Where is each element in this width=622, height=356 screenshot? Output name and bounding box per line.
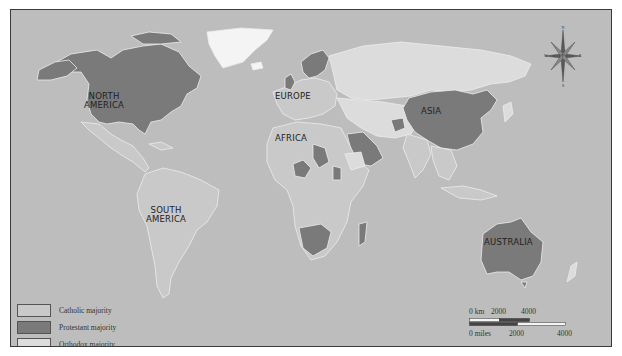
australia-protestant[interactable]	[481, 218, 543, 280]
legend-item-catholic: Catholic majority	[17, 302, 116, 319]
russia-orthodox[interactable]	[329, 42, 531, 100]
label-north-america: NORTH AMERICA	[84, 92, 124, 110]
legend-item-orthodox: Orthodox majority	[17, 336, 116, 347]
world-map[interactable]	[11, 10, 611, 346]
compass-rose-icon: N S W E	[543, 24, 583, 88]
svg-text:W: W	[544, 53, 548, 58]
svg-text:N: N	[562, 25, 565, 30]
legend: Catholic majority Protestant majority Or…	[17, 302, 116, 347]
swatch-catholic	[17, 304, 51, 317]
north-america-protestant[interactable]	[53, 44, 201, 134]
svg-text:S: S	[562, 83, 564, 88]
label-australia: AUSTRALIA	[484, 238, 533, 247]
swatch-orthodox	[17, 338, 51, 347]
scale-bar: 0 km 2000 4000 0 miles 2000 4000	[469, 307, 612, 347]
greenland[interactable]	[207, 28, 273, 68]
label-asia: ASIA	[421, 107, 441, 116]
south-america-catholic[interactable]	[137, 168, 219, 298]
map-frame: NORTH AMERICA SOUTH AMERICA EUROPE AFRIC…	[10, 9, 612, 347]
swatch-protestant	[17, 321, 51, 334]
label-africa: AFRICA	[275, 134, 307, 143]
svg-text:E: E	[579, 53, 582, 58]
label-south-america: SOUTH AMERICA	[146, 206, 186, 224]
label-europe: EUROPE	[275, 92, 311, 101]
legend-item-protestant: Protestant majority	[17, 319, 116, 336]
scandinavia-protestant[interactable]	[301, 50, 329, 78]
